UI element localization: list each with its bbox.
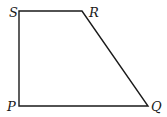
vertex-label-s: S bbox=[9, 5, 18, 20]
vertex-label-q: Q bbox=[151, 99, 162, 114]
quadrilateral-pqrs bbox=[19, 11, 148, 106]
vertex-label-p: P bbox=[6, 99, 16, 114]
trapezoid-diagram: S R Q P bbox=[0, 0, 167, 117]
vertex-label-r: R bbox=[88, 5, 99, 20]
